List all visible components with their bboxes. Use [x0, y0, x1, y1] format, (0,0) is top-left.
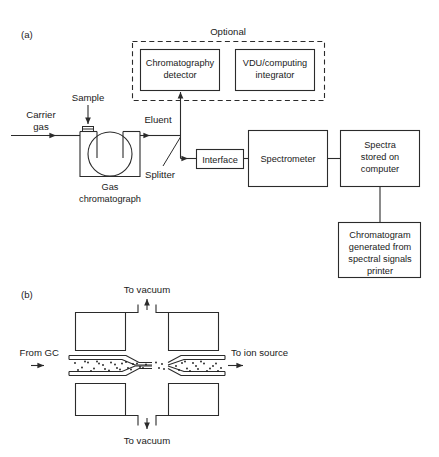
box-chromatogram-printer[interactable]: Chromatogram generated from spectral sig…: [339, 223, 421, 278]
to-vacuum-top-label: To vacuum: [124, 284, 170, 295]
chromatogram-label-line1: Chromatogram: [349, 230, 411, 240]
gc-column-coil: [88, 132, 132, 176]
spectrometer-label: Spectrometer: [260, 154, 315, 164]
chromatogram-label-line3: spectral signals: [348, 254, 412, 264]
expansion-gap-molecules: [155, 362, 165, 370]
spectra-stored-label-line3: computer: [361, 164, 399, 174]
gas-chromatograph-label-line1: Gas: [102, 182, 119, 192]
eluent-label: Eluent: [144, 114, 172, 125]
splitter-leader-line: [163, 137, 181, 166]
optional-group: Optional Chromatography detector VDU/com…: [133, 26, 325, 101]
gc-oven-outer-wall: [80, 132, 140, 177]
gc-ms-schematic-diagram: (a) Optional Chromatography detector VDU…: [0, 0, 439, 457]
gas-chromatograph: Gas chromatograph: [79, 132, 141, 205]
gas-chromatograph-label-line2: chromatograph: [79, 194, 141, 204]
carrier-gas-flow: Carrier gas: [11, 109, 80, 136]
upper-right-chamber-outline: [156, 305, 219, 351]
chromatography-detector-label-line2: detector: [163, 70, 196, 80]
panel-b-label: (b): [21, 289, 33, 300]
eluent-flow: Eluent: [140, 114, 181, 136]
figure-container: (a) Optional Chromatography detector VDU…: [0, 0, 439, 457]
carrier-gas-label-line2: gas: [33, 121, 49, 132]
upper-left-chamber-outline: [76, 305, 139, 351]
sample-injection: Sample: [72, 92, 105, 132]
to-ion-source-label: To ion source: [231, 347, 288, 358]
lower-right-chamber-outline: [156, 384, 219, 426]
vdu-integrator-label-line2: integrator: [256, 70, 295, 80]
box-chromatography-detector[interactable]: Chromatography detector: [141, 50, 220, 91]
panel-a-label: (a): [21, 29, 33, 40]
chromatogram-label-line2: generated from: [349, 242, 412, 252]
chromatography-detector-label-line1: Chromatography: [146, 58, 215, 68]
box-spectrometer[interactable]: Spectrometer: [249, 131, 328, 187]
interface-label: Interface: [202, 155, 238, 165]
box-interface[interactable]: Interface: [197, 150, 244, 169]
spectra-stored-label-line2: stored on: [361, 152, 399, 162]
vdu-integrator-label-line1: VDU/computing: [243, 58, 307, 68]
box-vdu-computing-integrator[interactable]: VDU/computing integrator: [236, 50, 315, 91]
right-skimmer-lower-inner-wall: [168, 366, 225, 372]
sample-label: Sample: [72, 92, 105, 103]
panel-b: (b) To vacuum From GC: [20, 284, 289, 446]
splitter-label: Splitter: [145, 169, 176, 180]
panel-a: (a) Optional Chromatography detector VDU…: [11, 26, 421, 278]
to-vacuum-bottom-label: To vacuum: [124, 435, 170, 446]
right-skimmer-gas-molecules: [175, 361, 222, 372]
carrier-gas-label-line1: Carrier: [26, 109, 56, 120]
spectra-stored-label-line1: Spectra: [364, 140, 397, 150]
box-spectra-stored-on-computer[interactable]: Spectra stored on computer: [341, 131, 420, 187]
jet-separator-right-skimmer: [168, 356, 225, 376]
from-gc-inlet: From GC: [20, 347, 60, 366]
lower-left-chamber-outline: [76, 384, 139, 426]
jet-separator-left-nozzle: [69, 356, 152, 376]
to-ion-source-outlet: To ion source: [228, 347, 288, 366]
upper-vacuum-chamber: [76, 305, 219, 351]
chromatogram-label-line4: printer: [367, 266, 393, 276]
optional-group-title: Optional: [210, 26, 246, 37]
from-gc-label: From GC: [20, 347, 60, 358]
